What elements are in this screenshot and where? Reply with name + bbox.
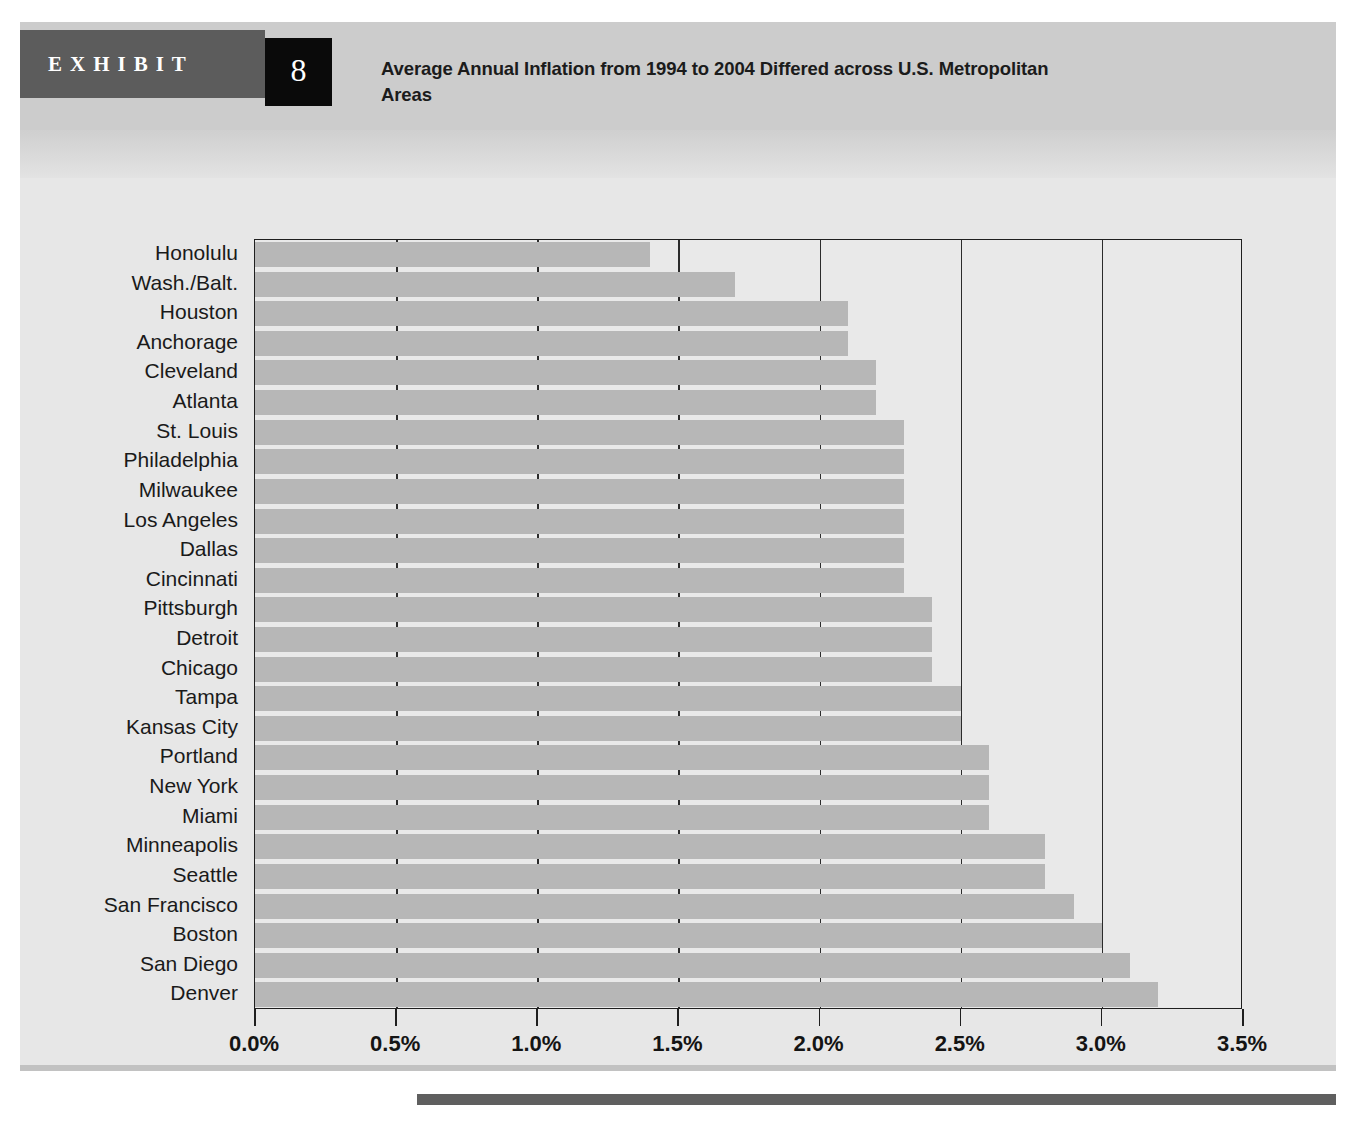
bar [255, 597, 932, 622]
bar-row [255, 951, 1243, 981]
bar-row [255, 536, 1243, 566]
bar [255, 686, 961, 711]
bar [255, 716, 961, 741]
category-label: San Francisco [104, 892, 238, 917]
bar-row [255, 477, 1243, 507]
category-label: Anchorage [136, 329, 238, 354]
bar-row [255, 358, 1243, 388]
bar [255, 953, 1130, 978]
bar-row [255, 240, 1243, 270]
bar [255, 420, 904, 445]
category-axis-labels: HonoluluWash./Balt.HoustonAnchorageCleve… [0, 239, 246, 1009]
bar-row [255, 832, 1243, 862]
bar [255, 242, 650, 267]
axis-tick [960, 1009, 962, 1026]
bar [255, 805, 989, 830]
bar-row [255, 714, 1243, 744]
bar-row [255, 418, 1243, 448]
bar [255, 657, 932, 682]
category-label: Pittsburgh [143, 595, 238, 620]
bar-row [255, 655, 1243, 685]
axis-tick [536, 1009, 538, 1026]
category-label: Minneapolis [126, 832, 238, 857]
inflation-bar-chart: HonoluluWash./Balt.HoustonAnchorageCleve… [0, 0, 1353, 1121]
bar [255, 627, 932, 652]
bar-row [255, 803, 1243, 833]
bar [255, 923, 1102, 948]
category-label: Dallas [180, 536, 238, 561]
bar-row [255, 921, 1243, 951]
axis-tick-label: 2.5% [935, 1031, 985, 1057]
axis-tick-label: 3.5% [1217, 1031, 1267, 1057]
bar [255, 864, 1045, 889]
bar [255, 775, 989, 800]
category-label: Miami [182, 803, 238, 828]
axis-tick [254, 1009, 256, 1026]
bar-row [255, 270, 1243, 300]
bar-row [255, 595, 1243, 625]
category-label: Los Angeles [124, 507, 238, 532]
bar-row [255, 388, 1243, 418]
axis-tick [819, 1009, 821, 1026]
bar [255, 568, 904, 593]
axis-tick-label: 2.0% [793, 1031, 843, 1057]
category-label: Portland [160, 743, 238, 768]
category-label: Wash./Balt. [131, 270, 238, 295]
bar [255, 272, 735, 297]
category-label: Milwaukee [139, 477, 238, 502]
bar [255, 894, 1074, 919]
bar [255, 509, 904, 534]
category-label: Honolulu [155, 240, 238, 265]
axis-tick [395, 1009, 397, 1026]
plot-area [254, 239, 1242, 1009]
axis-tick-label: 3.0% [1076, 1031, 1126, 1057]
value-axis: 0.0%0.5%1.0%1.5%2.0%2.5%3.0%3.5% [254, 1009, 1242, 1069]
category-label: Cleveland [145, 358, 238, 383]
panel-shadow [20, 1065, 1336, 1071]
bar-row [255, 892, 1243, 922]
bar [255, 331, 848, 356]
bar-row [255, 566, 1243, 596]
bar-row [255, 773, 1243, 803]
bar-row [255, 299, 1243, 329]
bar [255, 301, 848, 326]
category-label: New York [149, 773, 238, 798]
bar-row [255, 507, 1243, 537]
category-label: Cincinnati [146, 566, 238, 591]
axis-tick-label: 1.0% [511, 1031, 561, 1057]
category-label: Philadelphia [124, 447, 238, 472]
category-label: Boston [173, 921, 238, 946]
category-label: Seattle [173, 862, 238, 887]
category-label: Detroit [176, 625, 238, 650]
bottom-rule [417, 1094, 1336, 1105]
category-label: Houston [160, 299, 238, 324]
bar-row [255, 329, 1243, 359]
bar-row [255, 447, 1243, 477]
category-label: St. Louis [156, 418, 238, 443]
bar-row [255, 862, 1243, 892]
bar [255, 360, 876, 385]
bar-row [255, 743, 1243, 773]
axis-tick-label: 0.0% [229, 1031, 279, 1057]
axis-tick [1101, 1009, 1103, 1026]
bar-row [255, 980, 1243, 1010]
bar [255, 479, 904, 504]
bar-row [255, 625, 1243, 655]
category-label: Atlanta [173, 388, 238, 413]
bar [255, 538, 904, 563]
category-label: Denver [170, 980, 238, 1005]
bar [255, 390, 876, 415]
bar [255, 745, 989, 770]
bar [255, 449, 904, 474]
category-label: Tampa [175, 684, 238, 709]
category-label: Chicago [161, 655, 238, 680]
bar [255, 834, 1045, 859]
bar [255, 982, 1158, 1007]
exhibit-page: EXHIBIT 8 Average Annual Inflation from … [0, 0, 1353, 1121]
category-label: Kansas City [126, 714, 238, 739]
axis-tick [1242, 1009, 1244, 1026]
axis-tick [677, 1009, 679, 1026]
axis-tick-label: 1.5% [652, 1031, 702, 1057]
axis-tick-label: 0.5% [370, 1031, 420, 1057]
bar-row [255, 684, 1243, 714]
